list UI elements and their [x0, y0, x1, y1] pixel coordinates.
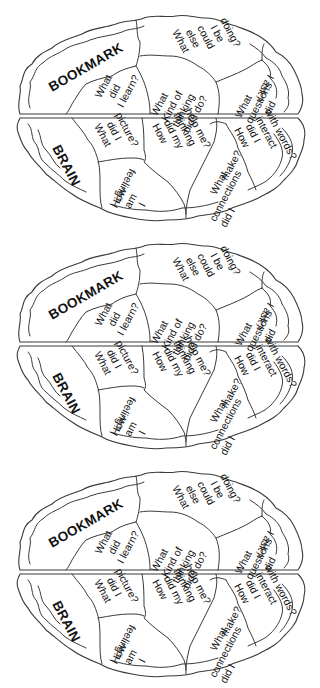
brain-drawing: BOOKMARK BRAIN What did I learn? What Ki…	[0, 236, 320, 462]
brain-bookmark-1: BOOKMARK BRAIN What did I learn? What Ki…	[0, 8, 320, 234]
brain-bookmark-3: BOOKMARK BRAIN What did I learn? What Ki…	[0, 464, 320, 688]
brain-bookmark-2: BOOKMARK BRAIN What did I learn? What Ki…	[0, 236, 320, 462]
brain-drawing: BOOKMARK BRAIN What did I learn? What Ki…	[0, 8, 320, 234]
bookmark-sheet: BOOKMARK BRAIN What did I learn? What Ki…	[0, 0, 320, 688]
brain-drawing: BOOKMARK BRAIN What did I learn? What Ki…	[0, 464, 320, 688]
